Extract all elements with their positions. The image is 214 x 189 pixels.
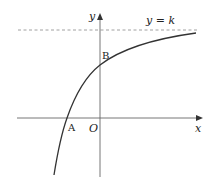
x-axis-arrow-icon <box>196 115 203 121</box>
diagram: y y = k B A O x <box>0 0 214 189</box>
origin-label: O <box>89 122 98 135</box>
point-b-label: B <box>102 50 109 61</box>
curve <box>54 33 196 175</box>
y-axis-label: y <box>88 10 96 23</box>
x-axis-label: x <box>195 122 202 135</box>
graph-canvas: y y = k B A O x <box>0 0 214 189</box>
asymptote-label: y = k <box>145 14 175 27</box>
point-a-label: A <box>67 122 76 133</box>
y-axis-arrow-icon <box>97 13 103 20</box>
